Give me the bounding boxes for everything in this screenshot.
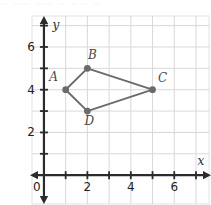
- x-tick-label: 4: [127, 180, 135, 194]
- x-axis-label: x: [198, 154, 205, 168]
- vertex-label-c: C: [158, 71, 167, 85]
- x-tick-label: 6: [170, 180, 178, 194]
- y-axis-label: y: [52, 18, 60, 32]
- vertex-label-d: D: [84, 114, 95, 128]
- coordinate-plot: 246246 0 x y ABCD: [0, 0, 211, 205]
- vertex-point-a: [62, 86, 69, 93]
- origin-label: 0: [33, 180, 41, 194]
- y-tick-label: 4: [27, 83, 35, 97]
- y-tick-label: 6: [27, 40, 35, 54]
- y-tick-label: 2: [27, 125, 35, 139]
- coordinate-plane-figure: — —— —— — —— — 246246 0 x y ABCD: [0, 0, 211, 205]
- x-tick-label: 2: [84, 180, 92, 194]
- vertex-label-b: B: [87, 48, 97, 62]
- vertex-label-a: A: [48, 70, 58, 84]
- vertex-point-b: [84, 65, 91, 72]
- vertex-point-c: [149, 86, 156, 93]
